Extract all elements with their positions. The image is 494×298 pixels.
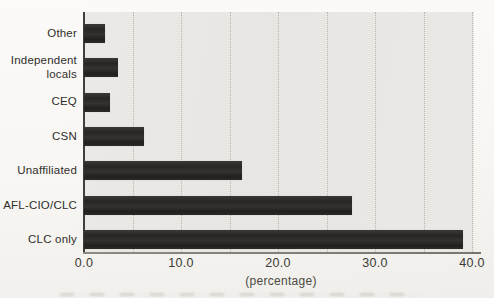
bar xyxy=(84,58,118,77)
x-axis-label: (percentage) xyxy=(245,274,317,288)
bar xyxy=(84,196,352,215)
bar-row: CEQ xyxy=(0,85,494,119)
bar-row: Independent locals xyxy=(0,50,494,84)
bar xyxy=(84,161,242,180)
category-label: CEQ xyxy=(0,95,83,108)
category-label: Other xyxy=(0,27,83,40)
bar-row: Unaffiliated xyxy=(0,154,494,188)
bar xyxy=(84,127,144,146)
x-tick-label: 10.0 xyxy=(168,256,194,270)
category-label: Independent locals xyxy=(0,54,83,80)
bar-row: CSN xyxy=(0,119,494,153)
bar xyxy=(84,93,110,112)
bar xyxy=(84,24,105,43)
bar xyxy=(84,230,463,249)
category-label: AFL-CIO/CLC xyxy=(0,199,83,212)
bar-row: CLC only xyxy=(0,223,494,257)
category-label: CLC only xyxy=(0,233,83,246)
x-tick-label: 40.0 xyxy=(459,256,485,270)
bar-chart-figure: OtherIndependent localsCEQCSNUnaffiliate… xyxy=(0,0,494,298)
x-tick-label: 20.0 xyxy=(265,256,291,270)
x-tick-label: 0.0 xyxy=(75,256,93,270)
x-tick-label: 30.0 xyxy=(362,256,388,270)
category-label: Unaffiliated xyxy=(0,164,83,177)
bar-row: Other xyxy=(0,16,494,50)
bar-row: AFL-CIO/CLC xyxy=(0,188,494,222)
scan-artifact xyxy=(60,293,420,296)
bar-rows: OtherIndependent localsCEQCSNUnaffiliate… xyxy=(0,16,494,257)
category-label: CSN xyxy=(0,130,83,143)
